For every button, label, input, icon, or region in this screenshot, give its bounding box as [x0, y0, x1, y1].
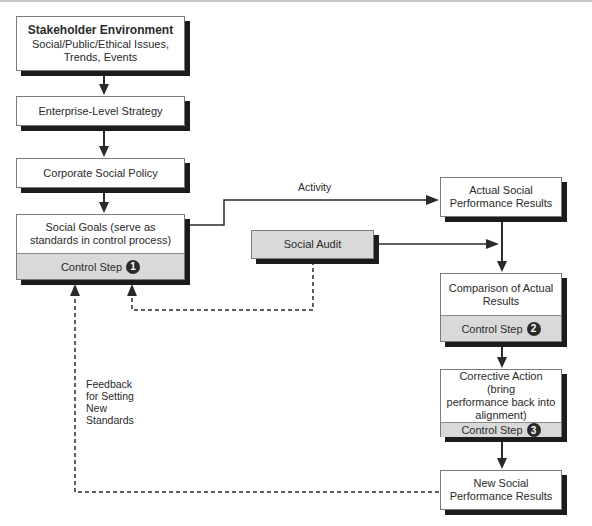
arrow-stakeholder-to-enterprise — [99, 74, 109, 95]
arrow-actual-to-comparison — [497, 221, 507, 272]
corrective-line2: performance back into — [447, 396, 556, 409]
activity-label: Activity — [298, 181, 331, 193]
feedback-label: Feedback for Setting New Standards — [86, 378, 134, 426]
feedback-line1: Feedback — [86, 378, 134, 390]
social-audit-box: Social Audit — [251, 230, 374, 259]
corporate-policy-box: Corporate Social Policy — [16, 158, 185, 188]
actual-results-line1: Actual Social — [469, 184, 533, 197]
step-number-badge: 1 — [126, 260, 140, 274]
new-results-box: New Social Performance Results — [440, 470, 562, 510]
enterprise-strategy-box: Enterprise-Level Strategy — [16, 96, 185, 126]
social-audit-label: Social Audit — [284, 238, 341, 251]
feedback-line3: New — [86, 402, 134, 414]
stakeholder-line1: Social/Public/Ethical Issues, — [32, 38, 169, 51]
comparison-line1: Comparison of Actual — [449, 282, 554, 295]
arrow-audit-to-comparison — [379, 239, 499, 249]
control-step-3: Control Step 3 — [441, 422, 561, 437]
control-step-label: Control Step — [461, 424, 522, 436]
enterprise-label: Enterprise-Level Strategy — [38, 105, 162, 118]
feedback-line2: for Setting — [86, 390, 134, 402]
arrow-activity — [190, 195, 439, 225]
stakeholder-environment-box: Stakeholder Environment Social/Public/Et… — [16, 16, 185, 71]
step-number-badge: 3 — [527, 423, 541, 437]
arrow-corrective-to-new — [497, 442, 507, 469]
new-results-line2: Performance Results — [450, 490, 553, 503]
corporate-label: Corporate Social Policy — [43, 167, 157, 180]
stakeholder-line2: Trends, Events — [64, 51, 138, 64]
new-results-line1: New Social — [473, 477, 528, 490]
comparison-line2: Results — [483, 295, 520, 308]
social-goals-box: Social Goals (serve as standards in cont… — [16, 214, 185, 280]
arrow-comparison-to-corrective — [497, 347, 507, 368]
actual-results-line2: Performance Results — [450, 197, 553, 210]
control-step-2: Control Step 2 — [441, 315, 561, 341]
corrective-line1: Corrective Action (bring — [445, 370, 557, 396]
arrow-enterprise-to-corporate — [99, 130, 109, 157]
social-goals-line1: Social Goals (serve as — [45, 221, 155, 234]
actual-results-box: Actual Social Performance Results — [440, 177, 562, 217]
comparison-box: Comparison of Actual Results Control Ste… — [440, 273, 562, 342]
control-step-1: Control Step 1 — [17, 253, 184, 279]
control-step-label: Control Step — [461, 323, 522, 335]
control-step-label: Control Step — [61, 261, 122, 273]
corrective-action-box: Corrective Action (bring performance bac… — [440, 369, 562, 437]
step-number-badge: 2 — [527, 322, 541, 336]
social-goals-line2: standards in control process) — [30, 234, 171, 247]
stakeholder-title: Stakeholder Environment — [28, 24, 173, 37]
corrective-line3: alignment) — [475, 409, 526, 422]
arrow-corporate-to-goals — [99, 192, 109, 213]
feedback-line4: Standards — [86, 414, 134, 426]
